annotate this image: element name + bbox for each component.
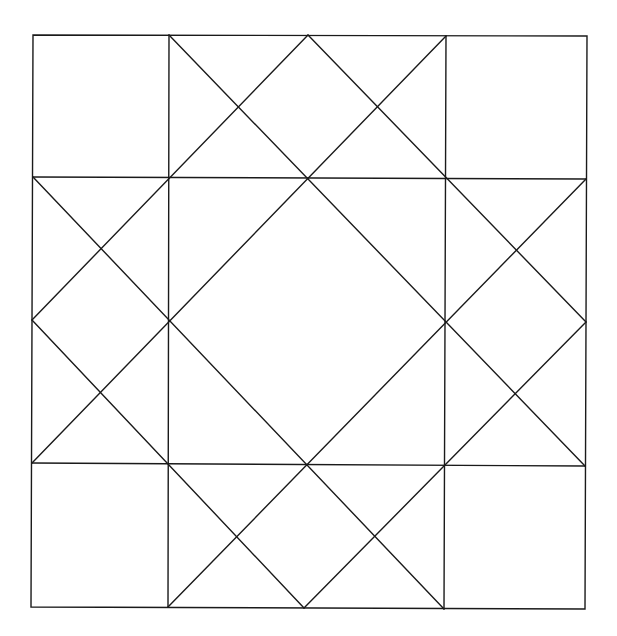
diag-left-upper-to-bottom-right-line <box>33 177 444 609</box>
diag-top-left-to-right-lower-line <box>169 35 585 466</box>
diag-right-upper-to-bottom-left-line <box>168 179 586 607</box>
diagonal-lines <box>32 35 586 609</box>
quilt-block-svg <box>0 0 617 636</box>
diag-top-right-to-left-lower-line <box>32 36 446 463</box>
grid-lines <box>32 35 586 609</box>
outer-frame <box>31 35 587 609</box>
quilt-block-diagram <box>0 0 617 636</box>
